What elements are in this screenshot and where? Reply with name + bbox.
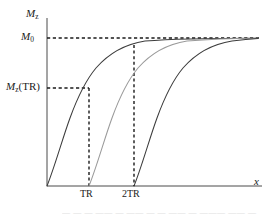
y-tick-label-mz-tr: Mz(TR) — [6, 81, 40, 94]
y-axis-symbol: M — [26, 7, 35, 19]
plot-canvas — [0, 0, 271, 219]
x-tick-label-2tr: 2TR — [122, 189, 140, 199]
x-axis-label: x — [254, 176, 259, 187]
y-tick-label-m0: M0 — [21, 31, 34, 44]
mz-tr-symbol: M — [6, 80, 15, 92]
recovery-curve-2 — [89, 38, 258, 186]
y-axis-label: Mz — [26, 8, 39, 21]
mz-tr-suffix: (TR) — [19, 80, 40, 92]
x-tick-label-tr: TR — [80, 189, 93, 199]
recovery-curve-3 — [134, 38, 258, 186]
m0-symbol: M — [21, 30, 30, 42]
longitudinal-magnetization-recovery-figure: Mz M0 Mz(TR) TR 2TR x — — — —— — —— — — … — [0, 0, 271, 219]
y-axis-subscript: z — [35, 12, 38, 21]
recovery-curve-1 — [47, 38, 258, 186]
clipped-caption-text: — — — —— — —— — — —— — ——— —— — — [62, 208, 268, 217]
m0-subscript: 0 — [30, 35, 34, 44]
